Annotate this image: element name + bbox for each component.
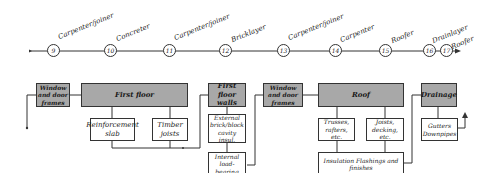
- box-trusses: Trusses, rafters, etc.: [318, 118, 355, 141]
- box-first-floor-walls: First floor walls: [208, 83, 246, 107]
- timeline-node-11: 11: [163, 44, 176, 57]
- timeline-node-9: 9: [47, 44, 60, 57]
- box-internal-load-bearing: Internal load-bearing: [208, 152, 246, 173]
- timeline-node-10: 10: [104, 44, 117, 57]
- box-drainage: Drainage: [421, 83, 457, 107]
- timeline-node-16: 16: [423, 44, 436, 57]
- box-reinforcement-slab: Reinforcement slab: [90, 118, 135, 141]
- box-external-brick: External brick/block cavity insul.: [208, 114, 246, 143]
- box-gutters-downpipes: Gutters Downpipes: [421, 118, 458, 141]
- box-window-door-frames-1: Window and door frames: [36, 83, 70, 107]
- box-first-floor: First floor: [81, 83, 188, 107]
- box-joists-decking: Joists, decking, etc.: [366, 118, 404, 141]
- box-timber-joists: Timber joists: [152, 118, 188, 141]
- timeline-node-15: 15: [379, 44, 392, 57]
- timeline-node-14: 14: [329, 44, 342, 57]
- box-roof: Roof: [318, 83, 404, 107]
- box-window-door-frames-2: Window and door frames: [263, 83, 303, 107]
- timeline-node-13: 13: [277, 44, 290, 57]
- timeline-node-12: 12: [219, 44, 232, 57]
- box-insulation-flashings: Insulation Flashings and finishes: [318, 152, 404, 173]
